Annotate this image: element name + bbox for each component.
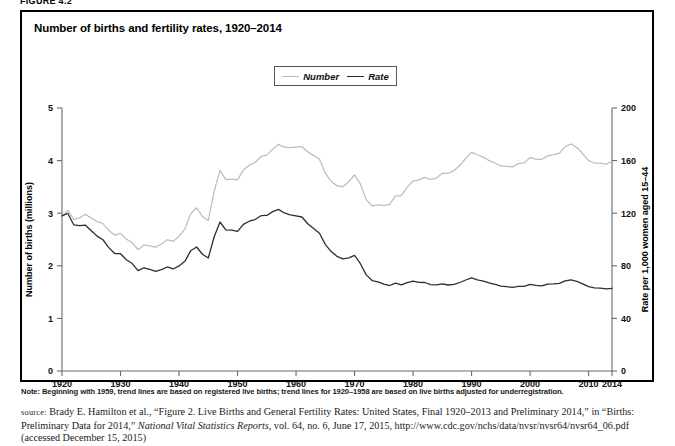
legend-label-rate: Rate xyxy=(368,71,389,82)
legend-entry-rate: Rate xyxy=(347,71,389,82)
legend-swatch-number-icon xyxy=(282,76,299,77)
chart-note: Note: Beginning with 1959, trend lines a… xyxy=(21,387,657,396)
legend-swatch-rate-icon xyxy=(347,76,364,77)
legend-entry-number: Number xyxy=(282,71,339,82)
figure-label: FIGURE 4.2 xyxy=(20,0,72,6)
chart-legend: Number Rate xyxy=(274,66,397,86)
chart-title: Number of births and fertility rates, 19… xyxy=(34,22,282,34)
chart-source: source: Brady E. Hamilton et al., “Figur… xyxy=(21,406,659,445)
legend-label-number: Number xyxy=(303,71,339,82)
source-italic-title: National Vital Statistics Reports xyxy=(138,420,269,431)
source-prefix: source: xyxy=(21,408,47,417)
